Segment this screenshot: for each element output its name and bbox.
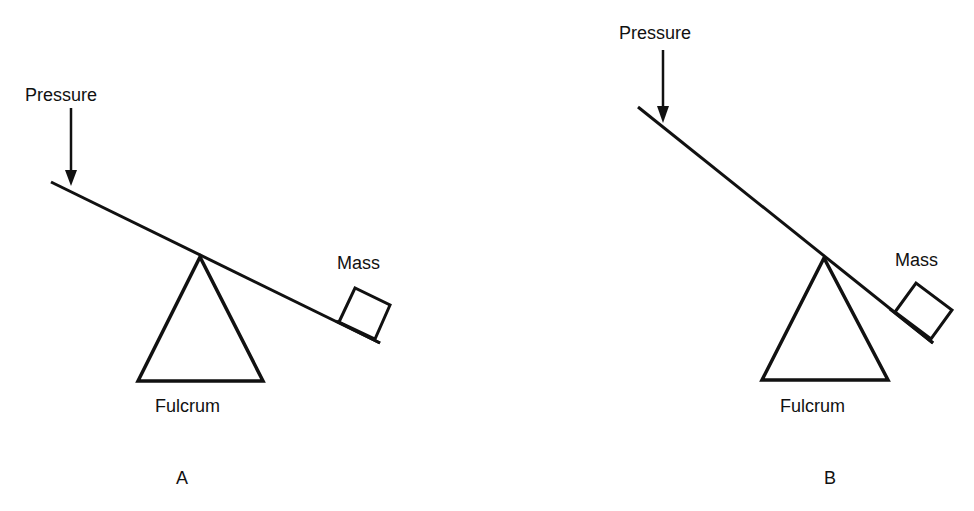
pressure-label-b: Pressure — [619, 23, 691, 43]
fulcrum-label-a: Fulcrum — [155, 396, 220, 416]
pressure-label-a: Pressure — [25, 85, 97, 105]
mass-block-a — [339, 288, 390, 339]
mass-label-b: Mass — [895, 250, 938, 270]
diagram-canvas: Pressure Fulcrum Mass A Pressure — [0, 0, 974, 511]
lever-beam-b — [638, 107, 933, 343]
panel-a: Pressure Fulcrum Mass A — [25, 85, 390, 488]
panel-b: Pressure Fulcrum Mass B — [619, 23, 952, 488]
lever-beam-a — [51, 182, 380, 343]
fulcrum-triangle-b — [762, 258, 888, 380]
fulcrum-label-b: Fulcrum — [780, 396, 845, 416]
lever-diagram: Pressure Fulcrum Mass A Pressure — [0, 0, 974, 511]
panel-caption-a: A — [176, 468, 188, 488]
panel-caption-b: B — [824, 468, 836, 488]
pressure-arrow-icon-a — [65, 108, 77, 186]
mass-block-b — [895, 283, 952, 339]
mass-label-a: Mass — [337, 253, 380, 273]
pressure-arrow-icon-b — [657, 50, 669, 123]
